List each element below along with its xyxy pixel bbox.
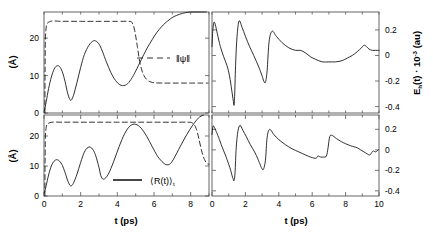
y-tick-label: -0.2 [385, 76, 400, 86]
panel-top-left: 01020 [30, 12, 209, 118]
legend-psi-label: ‖ψ‖ [176, 54, 190, 64]
y-tick-label: 0.2 [385, 25, 397, 35]
x-tick-label: 2 [78, 199, 83, 209]
legend-r-main: ⟨R(t)⟩ [150, 176, 173, 186]
figure-container: 010200.20-0.2-0.4024680102002468100.20-0… [0, 0, 433, 236]
y-tick-label: -0.2 [385, 165, 400, 175]
x-axis-label-left: t (ps) [114, 215, 137, 226]
x-tick-label: 0 [210, 199, 215, 209]
y-tick-label: 10 [30, 71, 40, 81]
panel-frame [212, 115, 379, 196]
x-tick-label: 4 [276, 199, 281, 209]
x-tick-label: 2 [243, 199, 248, 209]
legend-r-label: ⟨R(t)⟩t [150, 176, 175, 187]
x-tick-label: 8 [188, 199, 193, 209]
y-axis-label-right: Eh(t) · 10-3 (au) [411, 31, 423, 95]
y-tick-label: 0 [385, 50, 390, 60]
panel-top-right: 0.20-0.2-0.4 [212, 12, 400, 113]
x-tick-label: 0 [42, 199, 47, 209]
panel-frame [212, 12, 379, 113]
legend-r-sub: t [173, 180, 175, 187]
x-tick-label: 4 [115, 199, 120, 209]
y-tick-label: -0.4 [385, 186, 400, 196]
series-r [212, 21, 379, 106]
y-tick-label: 20 [30, 33, 40, 43]
legend-r: ⟨R(t)⟩t [113, 176, 175, 187]
y-tick-label: -0.4 [385, 102, 400, 112]
panel-bottom-right: 02468100.20-0.2-0.4 [210, 115, 400, 209]
x-tick-label: 8 [343, 199, 348, 209]
y-tick-label: 0.2 [385, 124, 397, 134]
y-axis-label-top: (Å) [7, 55, 18, 68]
x-tick-label: 6 [310, 199, 315, 209]
figure-svg: 010200.20-0.2-0.4024680102002468100.20-0… [0, 0, 433, 236]
x-axis-label-right: t (ps) [284, 215, 307, 226]
series-r [44, 115, 203, 193]
yr-mid: (t) · 10 [411, 56, 422, 85]
y-tick-label: 20 [30, 131, 40, 141]
panel-bottom-left: 0246801020 [30, 115, 209, 209]
y-tick-label: 0 [34, 108, 39, 118]
y-tick-label: 0 [385, 145, 390, 155]
y-tick-label: 10 [30, 161, 40, 171]
series-r [212, 125, 378, 181]
y-tick-label: 0 [34, 191, 39, 201]
x-tick-label: 6 [152, 199, 157, 209]
legend-psi: ‖ψ‖ [137, 54, 190, 64]
yr-tail: (au) [411, 31, 422, 51]
y-axis-label-bottom: (Å) [7, 149, 18, 162]
x-tick-label: 10 [374, 199, 384, 209]
